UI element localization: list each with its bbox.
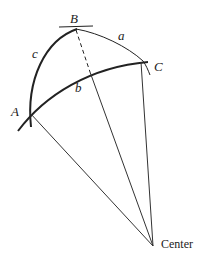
dashed-altitude	[76, 30, 90, 72]
side-label-b: b	[75, 80, 82, 95]
spherical-triangle-diagram: B C A a b c Center	[0, 0, 203, 260]
side-label-a: a	[118, 28, 125, 43]
center-label: Center	[161, 237, 193, 251]
vertex-label-c: C	[154, 59, 163, 74]
arc-c	[30, 29, 77, 127]
vertex-label-a: A	[10, 104, 19, 119]
radius-from-a	[30, 113, 153, 246]
side-label-c: c	[32, 46, 38, 61]
arc-ab-extension	[59, 26, 93, 27]
vertex-label-b: B	[70, 11, 78, 26]
